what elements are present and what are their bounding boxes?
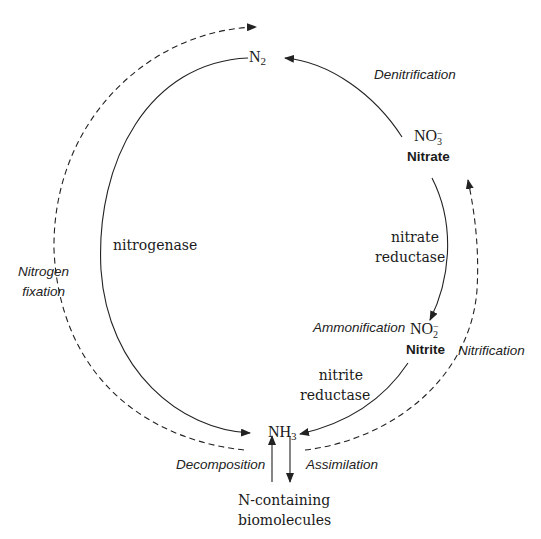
cycle-arrows <box>0 0 541 539</box>
nitrite-reductase-label: nitrite reductase <box>300 365 363 405</box>
nitrate-label: Nitrate <box>407 149 450 164</box>
biomolecules-node: N-containing biomolecules <box>238 490 328 530</box>
ammonification-label: Ammonification <box>313 320 405 335</box>
nitrate-reductase-label: nitrate reductase <box>375 227 439 267</box>
assimilation-label: Assimilation <box>306 457 378 472</box>
nitrification-label: Nitrification <box>458 343 525 358</box>
nitrogenase-label: nitrogenase <box>113 237 197 253</box>
nitrification-arc <box>305 180 478 450</box>
nitrite-formula: NO−2 <box>410 320 441 338</box>
nitrite-label: Nitrite <box>406 342 445 357</box>
nitrogen-fixation-label: Nitrogen fixation <box>18 262 69 302</box>
nitrate-formula: NO−3 <box>414 127 445 145</box>
nh3-node: NH3 <box>268 423 297 442</box>
denitrification-label: Denitrification <box>374 67 456 82</box>
n2-node: N2 <box>249 48 266 67</box>
decomposition-label: Decomposition <box>176 457 265 472</box>
